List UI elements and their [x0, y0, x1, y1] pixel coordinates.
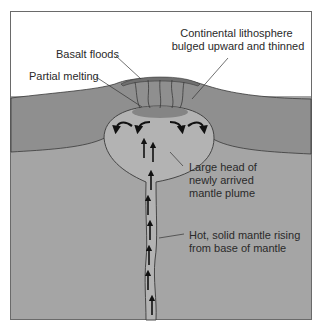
mantle-plume-diagram: Basalt floods Partial melting Continenta… [0, 0, 322, 327]
label-plume-head: Large head of newly arrived mantle plume [189, 161, 260, 199]
label-basalt-floods: Basalt floods [56, 48, 119, 60]
label-plume-tail: Hot, solid mantle rising from base of ma… [189, 229, 303, 254]
label-continental-lithosphere: Continental lithosphere bulged upward an… [172, 27, 305, 52]
label-partial-melting: Partial melting [29, 70, 99, 82]
